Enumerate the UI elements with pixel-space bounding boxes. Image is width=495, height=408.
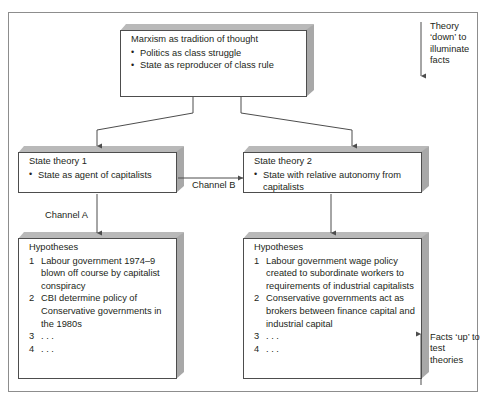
hypothesis-text: Labour government 1974–9 blown off cours… [41, 256, 160, 291]
hypothesis-item: 2CBI determine policy of Conservative go… [29, 292, 174, 330]
bullet-list: State as agent of capitalists [29, 169, 174, 182]
box-content: Hypotheses 1Labour government 1974–9 blo… [18, 232, 184, 361]
hypothesis-number: 2 [29, 292, 34, 305]
bullet-item: Politics as class struggle [131, 47, 304, 60]
hypothesis-number: 1 [29, 255, 34, 268]
hypothesis-text: . . . [41, 331, 54, 341]
hypothesis-item: 2Conservative governments act as brokers… [254, 292, 419, 330]
hypothesis-number: 1 [254, 255, 259, 268]
bullet-item: State as agent of capitalists [29, 169, 174, 182]
box-title: State theory 1 [29, 155, 174, 168]
label-channel-b: Channel B [190, 180, 237, 190]
bullet-list: Politics as class struggle State as repr… [131, 47, 304, 72]
box-state-theory-1: State theory 1 State as agent of capital… [18, 146, 184, 193]
hypothesis-item: 3. . . [254, 330, 419, 343]
bullet-item: State as reproducer of class rule [131, 59, 304, 72]
box-content: State theory 1 State as agent of capital… [18, 146, 184, 187]
bullet-list: State with relative autonomy from capita… [254, 169, 419, 194]
hypothesis-number: 2 [254, 292, 259, 305]
box-content: State theory 2 State with relative auton… [243, 146, 429, 200]
box-title: Marxism as tradition of thought [131, 33, 304, 46]
hypothesis-list: 1Labour government wage policy created t… [254, 255, 419, 356]
annotation-facts-up: Facts ‘up’ to test theories [430, 332, 480, 366]
bullet-item: State with relative autonomy from capita… [254, 169, 419, 194]
hypothesis-text: Labour government wage policy created to… [266, 256, 414, 291]
box-hypotheses-2: Hypotheses 1Labour government wage polic… [243, 232, 429, 379]
diagram-figure: Marxism as tradition of thought Politics… [0, 0, 495, 408]
box-content: Marxism as tradition of thought Politics… [120, 24, 314, 78]
box-title: State theory 2 [254, 155, 419, 168]
hypothesis-item: 1Labour government 1974–9 blown off cour… [29, 255, 174, 293]
box-title: Hypotheses [254, 241, 419, 254]
hypothesis-list: 1Labour government 1974–9 blown off cour… [29, 255, 174, 356]
box-title: Hypotheses [29, 241, 174, 254]
hypothesis-item: 3. . . [29, 330, 174, 343]
hypothesis-text: . . . [41, 344, 54, 354]
box-hypotheses-1: Hypotheses 1Labour government 1974–9 blo… [18, 232, 184, 379]
hypothesis-number: 3 [254, 330, 259, 343]
hypothesis-number: 4 [254, 343, 259, 356]
hypothesis-number: 4 [29, 343, 34, 356]
box-state-theory-2: State theory 2 State with relative auton… [243, 146, 429, 193]
hypothesis-text: CBI determine policy of Conservative gov… [41, 293, 161, 328]
hypothesis-number: 3 [29, 330, 34, 343]
annotation-theory-down: Theory ‘down’ to illuminate facts [430, 21, 480, 67]
hypothesis-text: . . . [266, 344, 279, 354]
box-marxism-tradition: Marxism as tradition of thought Politics… [120, 24, 314, 97]
hypothesis-item: 4. . . [254, 343, 419, 356]
hypothesis-item: 4. . . [29, 343, 174, 356]
label-channel-a: Channel A [43, 210, 90, 220]
hypothesis-item: 1Labour government wage policy created t… [254, 255, 419, 293]
box-content: Hypotheses 1Labour government wage polic… [243, 232, 429, 361]
hypothesis-text: . . . [266, 331, 279, 341]
hypothesis-text: Conservative governments act as brokers … [266, 293, 415, 328]
